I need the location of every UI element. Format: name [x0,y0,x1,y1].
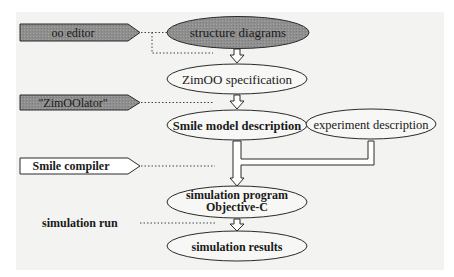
artifact-smile-model-description: Smile model description [167,110,307,140]
tool-zimoolator: "ZimOOlator" [20,95,140,110]
tool-oo-editor: oo editor [20,24,140,41]
tool-zimoolator-label: "ZimOOlator" [38,96,107,110]
artifact-structure-diagrams-label: structure diagrams [190,25,286,40]
artifact-zimoo-specification-label: ZimOO specification [182,72,293,87]
artifact-zimoo-specification: ZimOO specification [167,64,307,94]
artifact-simulation-program-label-line2: Objective-C [206,200,268,214]
arrow-spec-to-model [230,95,244,109]
arrow-merge-to-program [230,141,374,186]
artifact-experiment-description-label: experiment description [314,118,430,132]
artifact-smile-model-description-label: Smile model description [173,119,302,133]
artifact-simulation-results: simulation results [167,231,307,261]
artifact-structure-diagrams: structure diagrams [167,17,309,49]
diagram-canvas: oo editor "ZimOOlator" Smile compiler si… [0,0,454,277]
artifact-simulation-program: simulation program Objective-C [167,186,307,218]
workflow-diagram: oo editor "ZimOOlator" Smile compiler si… [0,0,454,277]
tool-oo-editor-label: oo editor [52,26,95,40]
tool-smile-compiler: Smile compiler [20,158,140,174]
arrow-program-to-results [230,219,244,231]
artifact-simulation-results-label: simulation results [192,240,283,254]
artifact-experiment-description: experiment description [306,109,436,139]
arrow-structure-to-spec [230,49,244,63]
process-simulation-run-label: simulation run [42,216,118,230]
tool-smile-compiler-label: Smile compiler [33,159,111,173]
